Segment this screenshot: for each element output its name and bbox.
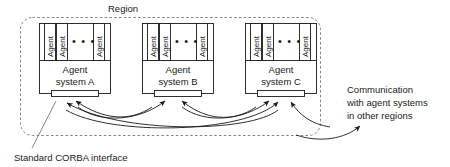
agent-label: Agent: [58, 35, 67, 57]
agent-system-b-name-line1: Agent: [166, 64, 191, 75]
agent-label: Agent: [198, 35, 207, 57]
agent-label: Agent: [95, 35, 104, 57]
region-label: Region: [108, 3, 138, 14]
corba-leader-line: [32, 101, 56, 148]
agent-system-c[interactable]: Agent Agent Agent • • • Agent system C: [246, 24, 317, 97]
flow-arrow-c-to-b: [182, 101, 256, 117]
diagram-canvas: Region Agent Agent Agent • • • Agent sys…: [0, 0, 450, 167]
agent-label: Agent: [149, 35, 158, 57]
communication-note-line1: Communication: [347, 84, 413, 95]
agent-label: Agent: [264, 35, 273, 57]
agent-label: Agent: [161, 35, 170, 57]
agent-system-c-name-line2: system C: [261, 76, 301, 87]
flow-arrow-a-to-c-long: [66, 102, 278, 128]
agent-ellipsis: • • •: [278, 35, 302, 47]
corba-interface-bar[interactable]: [258, 91, 305, 97]
agent-system-a-name-line2: system A: [56, 76, 95, 87]
agent-ellipsis: • • •: [175, 35, 199, 47]
flow-arrow-to-other-regions: [296, 126, 360, 139]
agent-system-a[interactable]: Agent Agent Agent • • • Agent system A: [40, 24, 111, 97]
agent-system-b[interactable]: Agent Agent Agent • • • Agent system B: [143, 24, 214, 97]
corba-caption: Standard CORBA interface: [14, 152, 128, 163]
communication-note-line3: in other regions: [347, 110, 413, 121]
agent-label: Agent: [252, 35, 261, 57]
agent-system-c-name-line1: Agent: [269, 64, 294, 75]
agent-label: Agent: [46, 35, 55, 57]
agent-system-a-name-line1: Agent: [63, 64, 88, 75]
flow-arrow-c-to-a-long: [67, 103, 278, 127]
communication-note-line2: with agent systems: [346, 97, 428, 108]
agent-system-b-name-line2: system B: [158, 76, 197, 87]
agent-label: Agent: [301, 35, 310, 57]
flow-arrow-external-to-c: [291, 102, 330, 127]
corba-interface-bar[interactable]: [155, 91, 202, 97]
corba-interface-bar[interactable]: [52, 91, 99, 97]
agent-ellipsis: • • •: [72, 35, 96, 47]
